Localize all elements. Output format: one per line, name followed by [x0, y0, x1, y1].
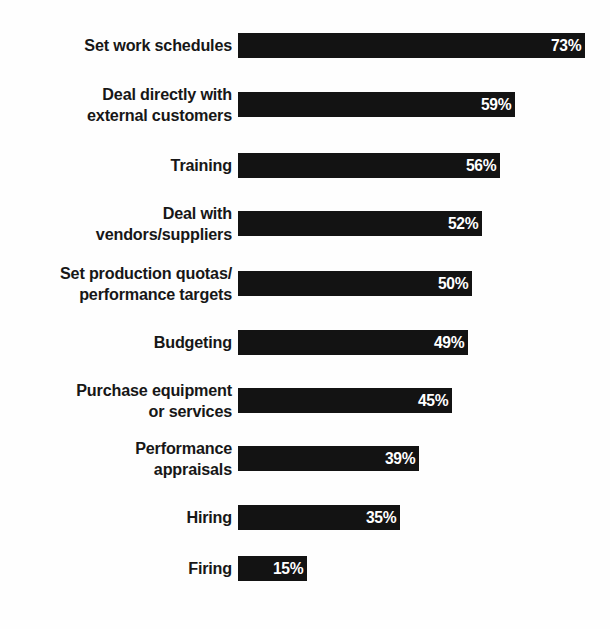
category-label: Set work schedules [35, 35, 232, 56]
category-label: Deal directly with external customers [35, 84, 232, 126]
bar-fill: 39% [238, 446, 419, 471]
bar-value-label: 15% [273, 560, 303, 577]
bar-fill: 52% [238, 211, 482, 236]
bar-value-label: 49% [434, 334, 464, 351]
bar-value-label: 50% [438, 275, 468, 292]
bar-track: 45% [238, 388, 452, 413]
bar-fill: 45% [238, 388, 452, 413]
bar-track: 73% [238, 33, 585, 58]
category-label: Budgeting [35, 332, 232, 353]
bar-fill: 50% [238, 271, 472, 296]
bar-chart: Set work schedules73%Deal directly with … [0, 0, 610, 629]
bar-track: 49% [238, 330, 468, 355]
bar-track: 50% [238, 271, 472, 296]
category-label: Firing [35, 558, 232, 579]
bar-value-label: 39% [385, 450, 415, 467]
bar-fill: 59% [238, 92, 515, 117]
category-label: Hiring [35, 507, 232, 528]
bar-track: 35% [238, 505, 400, 530]
bar-value-label: 56% [466, 157, 496, 174]
bar-fill: 15% [238, 556, 307, 581]
category-label: Training [35, 155, 232, 176]
bar-track: 15% [238, 556, 307, 581]
category-label: Performance appraisals [35, 438, 232, 480]
bar-fill: 56% [238, 153, 500, 178]
bar-value-label: 52% [448, 215, 478, 232]
bar-value-label: 45% [418, 392, 448, 409]
bar-track: 59% [238, 92, 515, 117]
bar-track: 39% [238, 446, 419, 471]
bar-track: 52% [238, 211, 482, 236]
category-label: Purchase equipment or services [35, 380, 232, 422]
bar-track: 56% [238, 153, 500, 178]
bar-fill: 49% [238, 330, 468, 355]
bar-value-label: 35% [366, 509, 396, 526]
bar-value-label: 59% [481, 96, 511, 113]
bar-fill: 35% [238, 505, 400, 530]
category-label: Deal with vendors/suppliers [35, 203, 232, 245]
bar-value-label: 73% [551, 37, 581, 54]
category-label: Set production quotas/ performance targe… [35, 263, 232, 305]
bar-fill: 73% [238, 33, 585, 58]
